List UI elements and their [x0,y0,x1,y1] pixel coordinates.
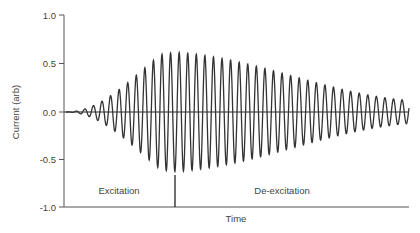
chart: 1.0 0.5 0.0 -0.5 -1.0 Current (arb) Time… [0,0,420,233]
y-tick-label: 0.0 [43,107,56,118]
y-axis-title: Current (arb) [10,85,21,139]
x-axis-title: Time [226,213,247,224]
deexcitation-label: De-excitation [254,185,309,196]
y-tick-label: -0.5 [40,154,56,165]
y-tick-label: 1.0 [43,10,56,21]
y-ticks [59,15,64,207]
y-tick-label: -1.0 [40,202,56,213]
excitation-label: Excitation [98,185,139,196]
y-tick-label: 0.5 [43,58,56,69]
current-waveform [66,53,409,172]
